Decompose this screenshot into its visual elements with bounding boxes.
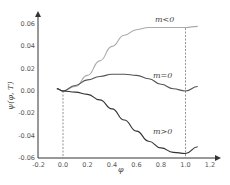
svg-text:0.4: 0.4 <box>107 161 117 169</box>
series-m<0 <box>57 26 198 91</box>
svg-text:0.8: 0.8 <box>156 161 166 169</box>
x-tick-labels: -0.20.00.20.40.60.81.01.2 <box>32 161 215 169</box>
annotation-m-zero: m=0 <box>153 71 172 80</box>
x-axis-label: φ <box>118 165 124 174</box>
svg-text:0.6: 0.6 <box>131 161 141 169</box>
series-m>0 <box>57 89 198 154</box>
svg-text:-0.04: -0.04 <box>18 132 35 140</box>
svg-text:-0.06: -0.06 <box>18 154 35 162</box>
svg-text:1.2: 1.2 <box>205 161 215 169</box>
svg-text:-0.2: -0.2 <box>32 161 45 169</box>
svg-text:0.02: 0.02 <box>21 65 35 73</box>
y-axis-label: ψ(φ, T) <box>6 81 15 110</box>
svg-text:-0.02: -0.02 <box>18 109 35 117</box>
series <box>57 26 198 153</box>
svg-text:1.0: 1.0 <box>180 161 190 169</box>
annotation-m-neg: m<0 <box>155 15 174 24</box>
svg-text:0.06: 0.06 <box>21 20 35 28</box>
annotation-m-pos: m>0 <box>153 127 172 136</box>
svg-text:0.0: 0.0 <box>58 161 68 169</box>
series-m=0 <box>57 74 198 91</box>
svg-text:0.04: 0.04 <box>21 42 35 50</box>
svg-text:0.2: 0.2 <box>82 161 92 169</box>
y-tick-labels: 0.060.040.020.00-0.02-0.04-0.06 <box>18 20 35 162</box>
chart: -0.20.00.20.40.60.81.01.2 0.060.040.020.… <box>0 0 230 185</box>
svg-text:0.00: 0.00 <box>21 87 35 95</box>
